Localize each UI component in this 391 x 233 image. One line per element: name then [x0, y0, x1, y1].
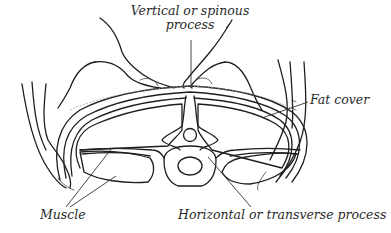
- label-muscle: Muscle: [40, 208, 86, 222]
- label-transverse-process: Horizontal or transverse process: [178, 208, 386, 222]
- right-hand-side: [257, 60, 305, 190]
- label-spinous-line2: process: [116, 18, 264, 32]
- label-fat-cover: Fat cover: [310, 93, 369, 107]
- fat-cover-layers: [57, 86, 307, 182]
- leader-transverse: [208, 157, 251, 207]
- label-spinous-process: Vertical or spinous process: [116, 4, 264, 32]
- right-hand-upper: [183, 20, 262, 110]
- leader-muscle-1: [66, 148, 112, 207]
- left-hand-side: [22, 82, 74, 190]
- vertebra: [80, 96, 300, 186]
- leader-muscle-2: [70, 176, 116, 207]
- loin-cross-section-illustration: [0, 0, 391, 233]
- label-spinous-line1: Vertical or spinous: [116, 4, 264, 18]
- diagram-canvas: Vertical or spinous process Fat cover Mu…: [0, 0, 391, 233]
- muscle-outline: [76, 104, 296, 184]
